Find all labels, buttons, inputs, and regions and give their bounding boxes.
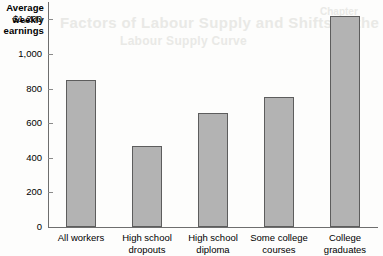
bar	[132, 146, 162, 227]
x-axis-category-label-line: High school	[180, 232, 246, 244]
y-axis-tick-label: 1,000	[0, 48, 42, 59]
y-axis-line	[48, 2, 49, 228]
y-axis-title-line-0: Average	[0, 2, 44, 14]
y-axis-tick-label: 0	[0, 221, 42, 232]
x-axis-category-label: High schooldiploma	[180, 232, 246, 255]
chart-figure: Factors of Labour Supply and Shifts in t…	[0, 0, 383, 256]
y-axis-tick-mark	[48, 54, 53, 55]
y-axis-tick-mark	[48, 89, 53, 90]
x-axis-category-label-line: graduates	[312, 244, 378, 256]
bar	[330, 16, 360, 227]
bar	[264, 97, 294, 227]
x-axis-category-label-line: High school	[114, 232, 180, 244]
y-axis-tick-mark	[48, 123, 53, 124]
x-axis-category-label-line: courses	[246, 244, 312, 256]
x-axis-line	[48, 227, 378, 228]
plot-area: 02004006008001,000$1,200	[48, 2, 378, 228]
y-axis-tick-label: 200	[0, 186, 42, 197]
y-axis-tick-mark	[48, 158, 53, 159]
y-axis-tick-mark	[48, 192, 53, 193]
x-axis-category-label: All workers	[48, 232, 114, 244]
x-axis-category-label: High schooldropouts	[114, 232, 180, 255]
x-axis-category-label-line: dropouts	[114, 244, 180, 256]
y-axis-tick-label: 600	[0, 117, 42, 128]
x-axis-category-label-line: diploma	[180, 244, 246, 256]
y-axis-title-line-2: earnings	[0, 25, 44, 37]
x-axis-category-label-line: College	[312, 232, 378, 244]
y-axis-tick-label: $1,200	[0, 13, 42, 24]
y-axis-tick-label: 400	[0, 152, 42, 163]
x-axis-category-label: Collegegraduates	[312, 232, 378, 255]
x-axis-category-label: Some collegecourses	[246, 232, 312, 255]
y-axis-tick-mark	[48, 19, 53, 20]
bar	[66, 80, 96, 227]
x-axis-category-label-line: All workers	[48, 232, 114, 244]
x-axis-category-label-line: Some college	[246, 232, 312, 244]
y-axis-tick-label: 800	[0, 83, 42, 94]
bar	[198, 113, 228, 227]
